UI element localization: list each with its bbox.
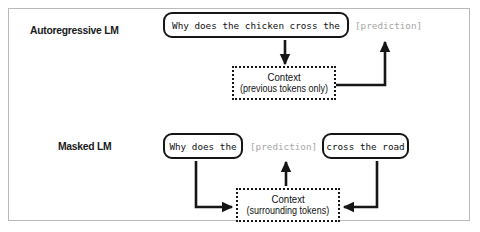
token-box-text: cross the road	[326, 141, 404, 152]
token-box-text: Why does the	[169, 141, 236, 152]
row-label-masked: Masked LM	[58, 140, 111, 152]
context-box-autoregressive: Context (previous tokens only)	[232, 66, 336, 100]
context-subtitle: (surrounding tokens)	[247, 205, 330, 217]
token-box-masked-left: Why does the	[163, 133, 243, 159]
context-title: Context	[267, 71, 300, 83]
context-title: Context	[271, 193, 304, 205]
prediction-placeholder-masked: [prediction]	[250, 140, 317, 153]
token-box-autoregressive-prompt: Why does the chicken cross the	[163, 12, 349, 38]
prediction-placeholder-autoregressive: [prediction]	[355, 19, 422, 32]
row-label-autoregressive: Autoregressive LM	[30, 24, 119, 36]
token-box-masked-right: cross the road	[322, 133, 409, 159]
token-box-text: Why does the chicken cross the	[172, 20, 340, 31]
figure-canvas: Autoregressive LM Why does the chicken c…	[0, 0, 480, 232]
context-subtitle: (previous tokens only)	[240, 83, 328, 95]
context-box-masked: Context (surrounding tokens)	[236, 188, 340, 222]
